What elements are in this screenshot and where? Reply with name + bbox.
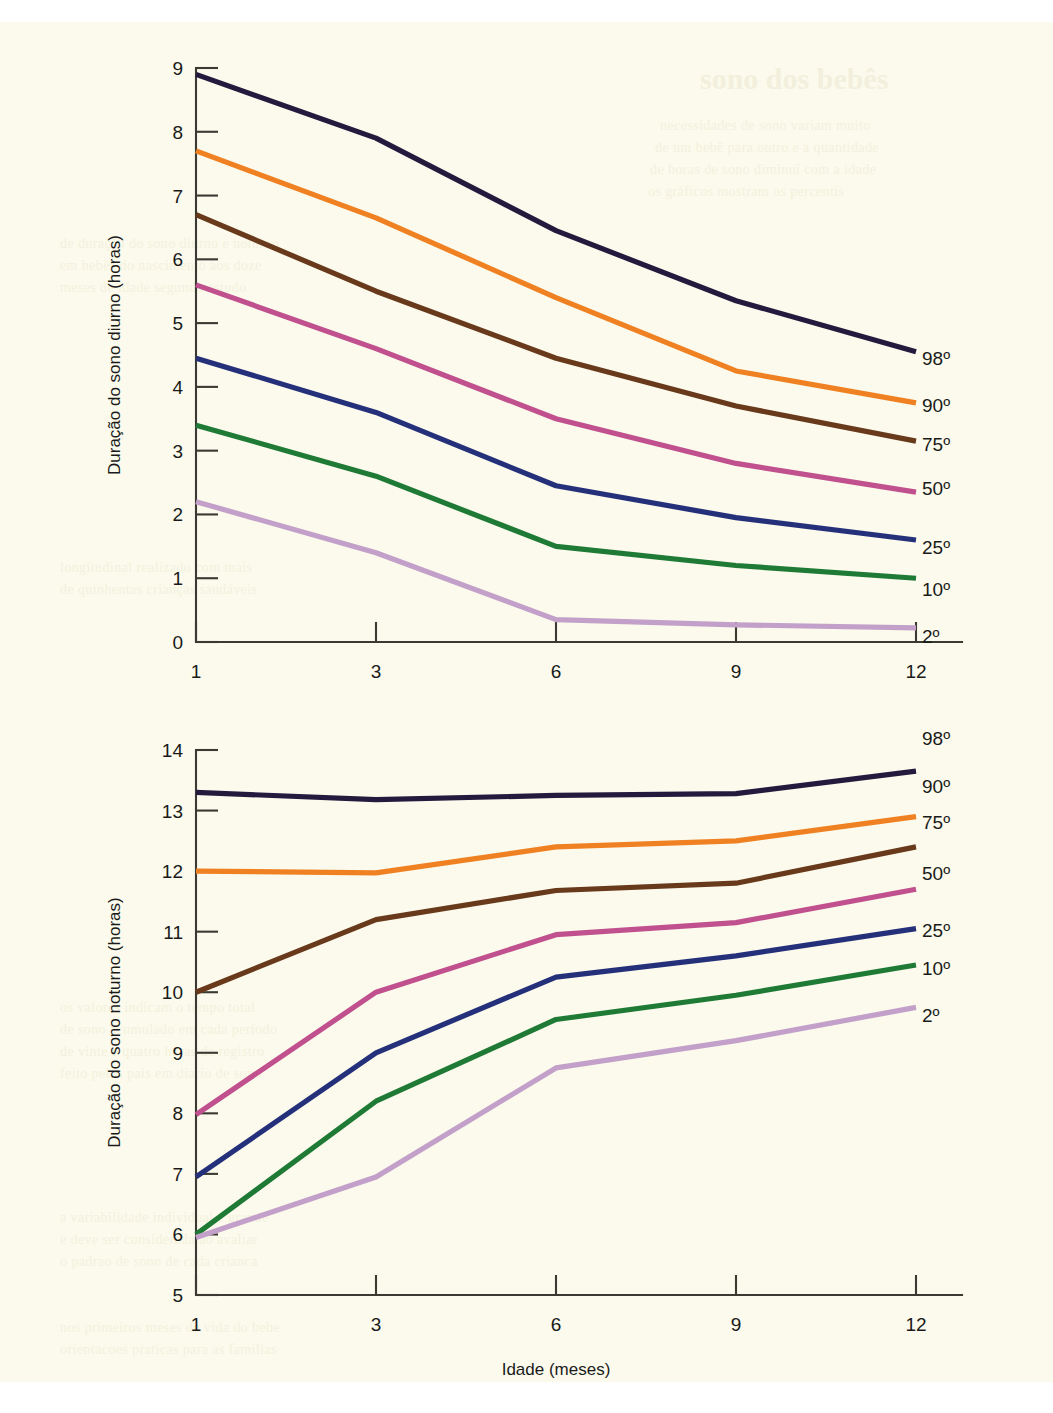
chart-daytime-sleep: 0123456789136912Idade (meses)Duração do … — [0, 20, 1053, 700]
series-label-50: 50º — [922, 478, 950, 499]
y-tick-label: 3 — [172, 441, 183, 462]
y-tick-label: 6 — [172, 249, 183, 270]
y-tick-label: 7 — [172, 1164, 183, 1185]
y-tick-label: 9 — [172, 58, 183, 79]
x-tick-label: 3 — [371, 661, 382, 682]
series-label-98: 98º — [922, 728, 950, 749]
series-line-98 — [196, 771, 916, 799]
y-tick-label: 13 — [162, 801, 183, 822]
series-line-98 — [196, 74, 916, 351]
y-tick-label: 8 — [172, 1103, 183, 1124]
series-label-2: 2º — [922, 1005, 940, 1026]
y-tick-label: 5 — [172, 313, 183, 334]
x-tick-label: 1 — [191, 661, 202, 682]
series-label-25: 25º — [922, 920, 950, 941]
y-tick-label: 4 — [172, 377, 183, 398]
x-tick-label: 12 — [905, 1314, 926, 1335]
x-tick-label: 6 — [551, 1314, 562, 1335]
nighttime-sleep-plot: 567891011121314136912Idade (meses)Duraçã… — [0, 715, 1053, 1395]
series-line-90 — [196, 817, 916, 873]
x-axis-title: Idade (meses) — [502, 1360, 611, 1379]
series-label-90: 90º — [922, 776, 950, 797]
y-tick-label: 2 — [172, 504, 183, 525]
y-tick-label: 10 — [162, 982, 183, 1003]
y-axis-title: Duração do sono noturno (horas) — [105, 897, 124, 1147]
y-tick-label: 5 — [172, 1285, 183, 1306]
chart-nighttime-sleep: 567891011121314136912Idade (meses)Duraçã… — [0, 715, 1053, 1395]
y-tick-label: 1 — [172, 568, 183, 589]
x-tick-label: 12 — [905, 661, 926, 682]
y-tick-label: 0 — [172, 632, 183, 653]
series-line-75 — [196, 847, 916, 992]
series-label-50: 50º — [922, 863, 950, 884]
y-tick-label: 7 — [172, 186, 183, 207]
series-line-10 — [196, 425, 916, 578]
x-tick-label: 6 — [551, 661, 562, 682]
series-label-10: 10º — [922, 579, 950, 600]
y-tick-label: 9 — [172, 1043, 183, 1064]
series-label-75: 75º — [922, 812, 950, 833]
y-tick-label: 6 — [172, 1224, 183, 1245]
series-line-2 — [196, 502, 916, 628]
series-line-50 — [196, 889, 916, 1114]
axis-frame — [196, 68, 962, 642]
series-line-90 — [196, 151, 916, 403]
y-tick-label: 8 — [172, 122, 183, 143]
series-label-75: 75º — [922, 434, 950, 455]
series-label-98: 98º — [922, 348, 950, 369]
y-tick-label: 12 — [162, 861, 183, 882]
daytime-sleep-plot: 0123456789136912Idade (meses)Duração do … — [0, 20, 1053, 700]
series-label-10: 10º — [922, 958, 950, 979]
page-root: sono dos bebêsnecessidades de sono varia… — [0, 0, 1053, 1413]
series-label-25: 25º — [922, 537, 950, 558]
x-tick-label: 9 — [731, 661, 742, 682]
x-tick-label: 3 — [371, 1314, 382, 1335]
y-tick-label: 14 — [162, 740, 184, 761]
series-line-75 — [196, 215, 916, 441]
y-tick-label: 11 — [163, 922, 183, 943]
series-label-90: 90º — [922, 395, 950, 416]
x-tick-label: 9 — [731, 1314, 742, 1335]
x-tick-label: 1 — [191, 1314, 202, 1335]
series-label-2: 2º — [922, 626, 940, 647]
y-axis-title: Duração do sono diurno (horas) — [105, 235, 124, 475]
series-line-25 — [196, 929, 916, 1177]
